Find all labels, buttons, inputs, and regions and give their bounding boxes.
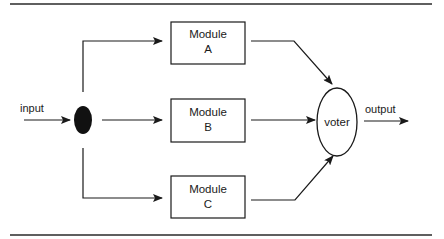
module-b-letter: B: [204, 121, 212, 133]
module-b: Module B: [171, 99, 245, 142]
arrow-a-to-voter: [251, 41, 332, 84]
arrow-to-module-a: [83, 41, 162, 92]
voter: voter: [317, 88, 357, 156]
module-b-title: Module: [189, 106, 227, 118]
module-c: Module C: [171, 176, 245, 218]
module-c-letter: C: [204, 198, 212, 210]
voter-label: voter: [324, 116, 350, 128]
input-label: input: [20, 102, 44, 114]
module-a-title: Module: [189, 28, 227, 40]
module-a: Module A: [171, 22, 245, 64]
module-a-letter: A: [204, 43, 212, 55]
tmr-diagram: input Module A Module B Module C voter o…: [0, 0, 444, 239]
arrow-to-module-c: [83, 148, 162, 198]
module-c-title: Module: [189, 183, 227, 195]
arrow-c-to-voter: [251, 156, 333, 200]
output-label: output: [365, 103, 396, 115]
fanout-node: [74, 106, 92, 134]
